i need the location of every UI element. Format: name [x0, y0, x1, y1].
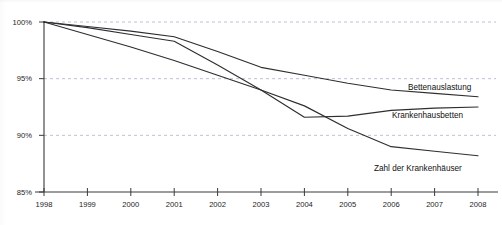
x-tick-label-2001: 2001 [166, 200, 183, 209]
x-tick-label-2000: 2000 [122, 200, 139, 209]
x-tick-label-2004: 2004 [296, 200, 313, 209]
x-tick-label-1999: 1999 [79, 200, 96, 209]
y-tick-label-85: 85% [17, 188, 32, 197]
x-tick-label-2005: 2005 [339, 200, 356, 209]
x-tick-label-2002: 2002 [209, 200, 226, 209]
y-tick-label-95: 95% [17, 74, 32, 83]
series-label-1: Krankenhausbetten [392, 111, 463, 120]
series-label-0: Bettenauslastung [408, 83, 472, 92]
line-chart: 85%90%95%100% 19981999200020012002200320… [0, 0, 502, 225]
x-tick-label-2007: 2007 [426, 200, 443, 209]
chart-canvas: 85%90%95%100% 19981999200020012002200320… [0, 0, 502, 225]
x-tick-label-2008: 2008 [470, 200, 487, 209]
x-tick-label-2003: 2003 [253, 200, 270, 209]
series-line-1 [44, 22, 478, 117]
x-tick-label-2006: 2006 [383, 200, 400, 209]
x-tick-label-1998: 1998 [36, 200, 53, 209]
y-tick-label-100: 100% [13, 18, 33, 27]
y-axis-tick-labels: 85%90%95%100% [13, 18, 44, 197]
x-axis-tick-labels: 1998199920002001200220032004200520062007… [36, 200, 487, 209]
series-label-2: Zahl der Krankenhäuser [374, 164, 462, 173]
series-labels-group: BettenauslastungKrankenhausbettenZahl de… [374, 83, 472, 173]
y-tick-label-90: 90% [17, 131, 32, 140]
